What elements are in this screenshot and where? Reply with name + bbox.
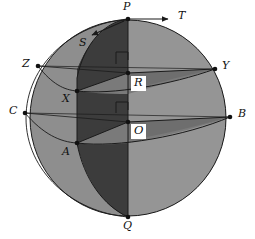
label-Z: Z — [22, 58, 30, 69]
diagram-canvas — [0, 0, 255, 239]
label-S: S — [79, 37, 87, 48]
label-C: C — [9, 105, 17, 116]
dot-X — [75, 89, 80, 94]
sphere-diagram: P Q R O X A Z C Y B T S — [0, 0, 255, 239]
dot-C — [23, 111, 28, 116]
label-B: B — [238, 108, 246, 119]
label-O: O — [131, 124, 146, 139]
label-T: T — [178, 10, 185, 21]
label-A: A — [62, 146, 70, 157]
dot-B — [228, 115, 233, 120]
label-P: P — [123, 1, 130, 12]
dot-R — [126, 71, 131, 76]
dot-P — [126, 17, 131, 22]
dot-A — [75, 141, 80, 146]
label-X: X — [62, 93, 70, 104]
label-Y: Y — [222, 60, 229, 71]
label-Q: Q — [123, 220, 132, 231]
dot-Z — [36, 64, 41, 69]
label-R: R — [131, 76, 146, 91]
dot-Y — [213, 67, 218, 72]
dot-O — [126, 120, 131, 125]
